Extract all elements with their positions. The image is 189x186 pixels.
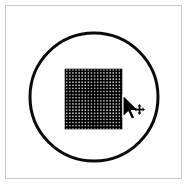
shape-layer bbox=[0, 0, 189, 186]
patterned-square[interactable] bbox=[65, 69, 122, 129]
drawing-canvas[interactable]: Drawing canvas Canvas frame Circle outli… bbox=[0, 0, 189, 186]
